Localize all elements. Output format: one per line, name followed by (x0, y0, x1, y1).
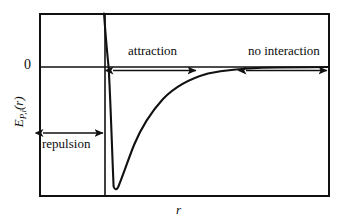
y-axis-label: EP,i(r) (12, 74, 28, 150)
plot-frame (39, 13, 330, 197)
annotation-label-repulsion: repulsion (42, 137, 90, 150)
y-axis-label-subscript: P,i (18, 110, 28, 119)
potential-energy-figure: 0 r EP,i(r) repulsion attraction no inte… (0, 0, 343, 223)
x-axis-label: r (176, 203, 181, 216)
y-axis-zero-tick-label: 0 (24, 58, 31, 72)
annotation-label-no-interaction: no interaction (248, 44, 320, 57)
annotation-label-attraction: attraction (128, 44, 177, 57)
y-axis-label-main: E (11, 119, 26, 127)
y-axis-label-argument: (r) (11, 96, 26, 110)
